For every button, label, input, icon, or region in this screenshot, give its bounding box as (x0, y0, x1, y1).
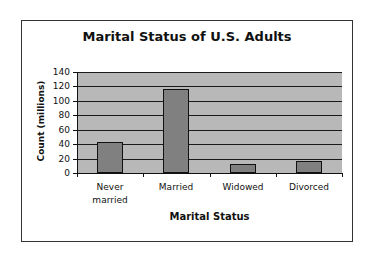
y-tick-mark (73, 115, 77, 116)
y-tick-label: 100 (44, 96, 70, 106)
plot-area (77, 72, 342, 173)
x-tick-label: Nevermarried (77, 181, 143, 207)
x-tick-label: Married (143, 181, 209, 194)
bar-never-married (97, 142, 123, 173)
x-tick-label: Widowed (210, 181, 276, 194)
y-tick-mark (73, 130, 77, 131)
y-tick-label: 140 (44, 67, 70, 77)
y-tick-mark (73, 144, 77, 145)
x-tick-mark (342, 173, 343, 177)
y-tick-mark (73, 72, 77, 73)
x-tick-mark (276, 173, 277, 177)
y-axis (77, 72, 78, 174)
x-axis-label: Marital Status (77, 211, 342, 222)
y-tick-mark (73, 101, 77, 102)
gridline (77, 115, 342, 116)
x-tick-mark (210, 173, 211, 177)
y-tick-label: 80 (44, 110, 70, 120)
y-tick-mark (73, 86, 77, 87)
y-tick-label: 120 (44, 81, 70, 91)
x-tick-label: Divorced (276, 181, 342, 194)
gridline (77, 72, 342, 73)
x-tick-mark (143, 173, 144, 177)
y-tick-label: 40 (44, 139, 70, 149)
gridline (77, 101, 342, 102)
y-tick-mark (73, 159, 77, 160)
y-tick-label: 0 (44, 168, 70, 178)
x-tick-mark (77, 173, 78, 177)
gridline (77, 86, 342, 87)
y-tick-label: 60 (44, 125, 70, 135)
bar-widowed (230, 164, 256, 173)
gridline (77, 130, 342, 131)
bar-divorced (296, 161, 322, 173)
bar-married (163, 89, 189, 173)
y-tick-label: 20 (44, 154, 70, 164)
y-axis-label: Count (millions) (36, 81, 46, 162)
chart-title: Marital Status of U.S. Adults (21, 29, 353, 44)
